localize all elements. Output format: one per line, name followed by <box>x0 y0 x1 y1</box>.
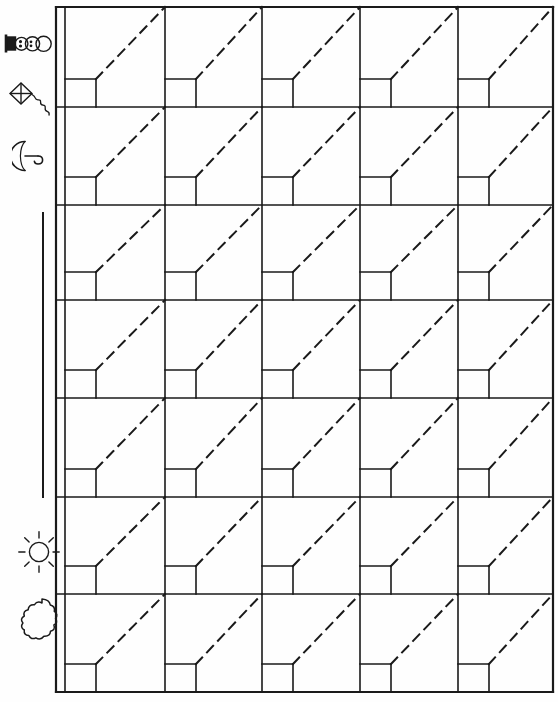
cell-diagonal-2-0 <box>96 205 165 272</box>
snowman-icon <box>4 28 52 60</box>
cell-diagonal-6-4 <box>489 594 553 664</box>
cell-diagonal-2-3 <box>391 205 458 272</box>
cell-diagonal-2-4 <box>489 205 553 272</box>
cloud-icon <box>20 596 62 644</box>
sun-icon <box>18 530 60 574</box>
cell-diagonal-6-1 <box>196 594 262 664</box>
cell-diagonal-4-4 <box>489 398 553 469</box>
cell-diagonal-1-3 <box>391 107 458 177</box>
cell-diagonal-4-2 <box>293 398 360 469</box>
cell-diagonal-4-1 <box>196 398 262 469</box>
cell-diagonal-5-0 <box>96 497 165 566</box>
cell-diagonal-3-4 <box>489 300 553 370</box>
cell-diagonal-0-3 <box>391 7 458 79</box>
cell-diagonal-5-1 <box>196 497 262 566</box>
cell-diagonal-0-4 <box>489 7 553 79</box>
cell-diagonal-3-2 <box>293 300 360 370</box>
cell-diagonal-3-0 <box>96 300 165 370</box>
cell-diagonal-1-4 <box>489 107 553 177</box>
cell-diagonal-5-3 <box>391 497 458 566</box>
icon-label-column <box>0 0 56 702</box>
cell-diagonal-6-2 <box>293 594 360 664</box>
cell-diagonal-4-0 <box>96 398 165 469</box>
cell-diagonal-5-2 <box>293 497 360 566</box>
cell-diagonal-2-2 <box>293 205 360 272</box>
cell-diagonal-0-1 <box>196 7 262 79</box>
worksheet-grid <box>0 0 558 702</box>
cell-diagonal-3-1 <box>196 300 262 370</box>
cell-diagonal-2-1 <box>196 205 262 272</box>
cell-diagonal-3-3 <box>391 300 458 370</box>
cell-diagonal-6-0 <box>96 594 165 664</box>
cell-diagonal-1-2 <box>293 107 360 177</box>
cell-diagonal-6-3 <box>391 594 458 664</box>
umbrella-icon <box>12 138 48 174</box>
cell-diagonal-0-0 <box>96 7 165 79</box>
kite-icon <box>6 78 54 122</box>
worksheet-page <box>0 0 558 702</box>
cell-diagonal-0-2 <box>293 7 360 79</box>
cell-diagonal-1-1 <box>196 107 262 177</box>
cell-diagonal-1-0 <box>96 107 165 177</box>
cell-diagonal-5-4 <box>489 497 553 566</box>
cell-diagonal-4-3 <box>391 398 458 469</box>
